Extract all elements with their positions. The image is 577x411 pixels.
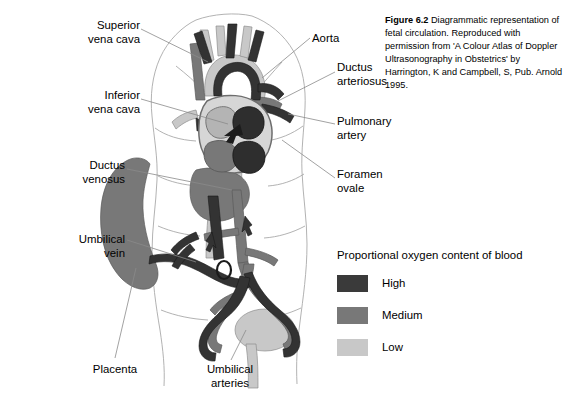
legend-swatch-medium: [337, 307, 368, 324]
legend-swatch-low: [337, 339, 368, 356]
label-foramen-ovale: Foramen ovale: [337, 167, 467, 195]
leader-pulmonary-artery: [288, 114, 335, 124]
legend-item-low: Low: [337, 338, 567, 356]
legend-title: Proportional oxygen content of blood: [337, 248, 567, 262]
label-ductus-venosus: Ductus venosus: [0, 158, 125, 186]
legend-item-high: High: [337, 274, 567, 292]
label-pulmonary-artery: Pulmonary artery: [337, 114, 467, 142]
label-placenta: Placenta: [55, 362, 175, 376]
legend-label-low: Low: [382, 340, 403, 354]
legend-label-high: High: [382, 276, 405, 290]
leader-aorta: [262, 38, 310, 78]
leader-foramen-ovale: [282, 140, 335, 178]
figure-container: Figure 6.2 Diagrammatic representation o…: [0, 0, 577, 411]
label-aorta: Aorta: [312, 31, 432, 45]
label-superior-vena-cava: Superior vena cava: [0, 18, 140, 46]
legend-item-medium: Medium: [337, 306, 567, 324]
label-inferior-vena-cava: Inferior vena cava: [0, 88, 140, 116]
oxygen-legend: Proportional oxygen content of blood Hig…: [337, 248, 567, 370]
label-umbilical-arteries: Umbilical arteries: [170, 362, 290, 390]
figure-caption-label: Figure 6.2: [385, 15, 428, 25]
heart-chamber-left-ventricle: [233, 141, 265, 173]
label-umbilical-vein: Umbilical vein: [0, 232, 125, 260]
legend-label-medium: Medium: [382, 308, 423, 322]
fetal-heart: [199, 95, 272, 173]
label-ductus-arteriosus: Ductus arteriosus: [337, 60, 467, 88]
legend-swatch-high: [337, 275, 368, 292]
